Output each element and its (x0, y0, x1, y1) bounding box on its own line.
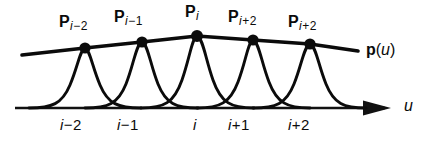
tick-label-3: i (193, 117, 197, 132)
control-point-dot-2 (136, 36, 147, 47)
bspline-figure: Pi−2 Pi−1 Pi Pi+2 Pi+2 p(u) u i−2 i−1 i … (0, 0, 431, 143)
basis-curve-1 (29, 48, 141, 108)
basis-curve-2 (85, 42, 198, 108)
control-point-label-1: Pi−2 (59, 14, 87, 32)
control-point-dot-5 (304, 38, 315, 49)
control-point-dot-4 (247, 34, 258, 45)
tick-label-4: i+1 (228, 117, 249, 132)
control-point-dot-3 (191, 30, 203, 42)
control-point-label-4: Pi+2 (228, 9, 256, 27)
basis-curve-3 (141, 36, 254, 108)
u-axis-label: u (404, 98, 413, 114)
control-point-label-5: Pi+2 (288, 14, 316, 32)
control-point-label-2: Pi−1 (114, 9, 142, 27)
basis-curve-4 (197, 40, 310, 108)
control-point-label-3: Pi (185, 4, 200, 22)
tick-label-2: i−1 (117, 117, 138, 132)
tick-label-5: i+2 (288, 117, 309, 132)
control-point-dot-1 (79, 42, 90, 53)
tick-label-1: i−2 (60, 117, 81, 132)
basis-curve-5 (253, 44, 366, 108)
curve-label-p-of-u: p(u) (366, 42, 395, 58)
